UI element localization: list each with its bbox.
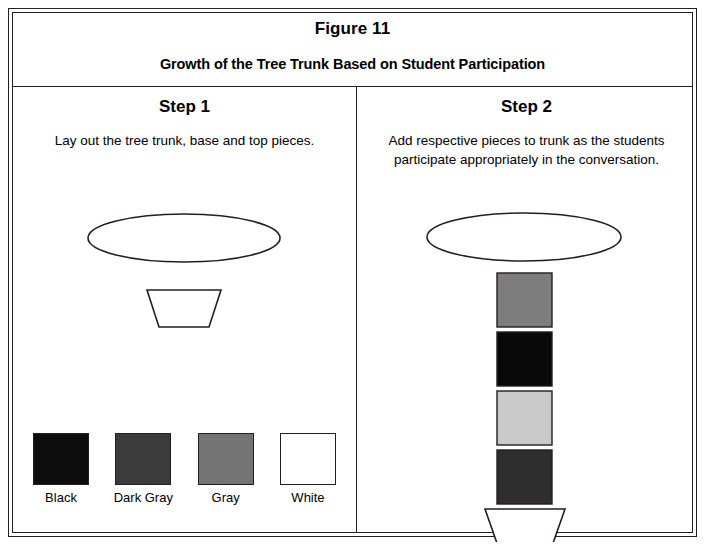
figure-frame-outer: Figure 11 Growth of the Tree Trunk Based… [8, 8, 697, 537]
step-1-description: Lay out the tree trunk, base and top pie… [13, 131, 356, 150]
trunk-square-dark-gray-icon [497, 450, 552, 504]
step-2-description: Add respective pieces to trunk as the st… [357, 131, 696, 169]
legend-item: Black [31, 433, 91, 505]
step-1-column: Step 1 Lay out the tree trunk, base and … [13, 87, 356, 532]
step-2-column: Step 2 Add respective pieces to trunk as… [357, 87, 696, 532]
legend-label: Dark Gray [114, 490, 173, 505]
legend-swatch-black [33, 433, 89, 485]
legend-item: White [278, 433, 338, 505]
top-ellipse-icon [427, 213, 621, 261]
base-trapezoid-icon [485, 509, 565, 542]
base-trapezoid-icon [147, 290, 221, 327]
step-1-title: Step 1 [13, 97, 356, 117]
legend-swatch-dark-gray [115, 433, 171, 485]
trunk-square-gray-icon [497, 273, 552, 327]
legend-swatch-white [280, 433, 336, 485]
legend-item: Gray [196, 433, 256, 505]
trunk-square-light-gray-icon [497, 391, 552, 445]
step-2-title: Step 2 [357, 97, 696, 117]
trunk-square-black-icon [497, 332, 552, 386]
figure-frame-inner: Figure 11 Growth of the Tree Trunk Based… [12, 12, 693, 533]
legend-item: Dark Gray [113, 433, 173, 505]
legend-label: White [291, 490, 324, 505]
color-legend: Black Dark Gray Gray White [31, 433, 338, 505]
legend-label: Gray [212, 490, 240, 505]
top-ellipse-icon [88, 214, 280, 262]
figure-title: Figure 11 [13, 19, 692, 39]
steps-container: Step 1 Lay out the tree trunk, base and … [13, 87, 692, 532]
figure-subtitle: Growth of the Tree Trunk Based on Studen… [13, 56, 692, 72]
legend-label: Black [45, 490, 77, 505]
legend-swatch-gray [198, 433, 254, 485]
